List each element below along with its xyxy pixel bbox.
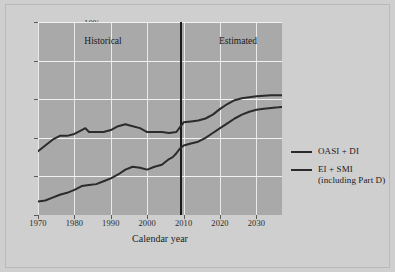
plot-area: Historical Estimated [38,22,282,215]
x-tick-label: 2030 [236,218,276,228]
legend-label: OASI + DI [318,146,391,157]
legend-label: EI + SMI [318,164,391,175]
legend-item-ei-smi: EI + SMI (including Part D) [291,164,391,186]
chart-figure: 10% 8% 6% 4% 2% 0% Historical Estimated … [0,0,395,272]
series-lines [38,22,282,215]
x-axis-title: Calendar year [38,233,282,244]
chart-legend: OASI + DI EI + SMI (including Part D) [291,146,391,193]
x-tick-label: 1980 [54,218,94,228]
x-tick-label: 2000 [127,218,167,228]
legend-line-swatch [291,169,312,171]
x-tick-label: 2020 [200,218,240,228]
legend-item-oasi-di: OASI + DI [291,146,391,157]
x-tick-label: 2010 [164,218,204,228]
legend-line-swatch [291,151,312,153]
x-tick-label: 1970 [18,218,58,228]
x-tick-label: 1990 [91,218,131,228]
legend-sublabel: (including Part D) [318,175,391,186]
